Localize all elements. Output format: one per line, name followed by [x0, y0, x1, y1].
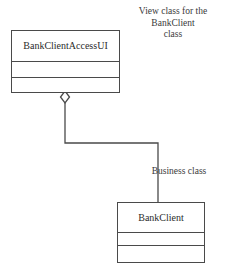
class-box-bank-client[interactable]: BankClient [117, 202, 205, 263]
attributes-compartment-bank-client [118, 232, 204, 245]
attributes-compartment-bank-client-access-ui [12, 61, 119, 77]
operations-compartment-bank-client-access-ui [12, 77, 119, 93]
class-box-bank-client-access-ui[interactable]: BankClientAccessUI [11, 30, 120, 93]
class-name-bank-client-access-ui: BankClientAccessUI [12, 31, 119, 61]
uml-class-diagram: View class for the BankClient class Busi… [0, 0, 244, 264]
business-class-annotation: Business class [124, 166, 234, 178]
class-name-bank-client: BankClient [118, 203, 204, 232]
operations-compartment-bank-client [118, 245, 204, 262]
view-class-annotation: View class for the BankClient class [112, 6, 234, 41]
aggregation-line [65, 103, 158, 202]
